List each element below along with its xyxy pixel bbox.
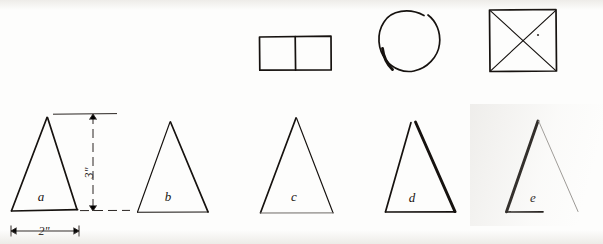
height-dimension-line <box>90 114 97 211</box>
base-dimension-label: 2" <box>38 224 50 238</box>
triangle-c-label: c <box>291 189 297 204</box>
dimension-annotations <box>11 114 130 237</box>
apex-extension-line <box>53 114 117 115</box>
figure-drawing: a b c d e 3" 2" <box>0 0 603 244</box>
triangle-c <box>261 118 334 213</box>
top-row-shapes <box>260 10 557 72</box>
triangle-a-label: a <box>38 189 45 204</box>
height-dimension-label: 3" <box>82 167 96 180</box>
triangle-e-label: e <box>530 190 536 205</box>
triangle-e <box>507 121 579 212</box>
triangle-d <box>386 122 456 212</box>
stray-dot <box>537 34 539 36</box>
triangle-labels: a b c d e <box>38 189 536 205</box>
triangle-a <box>12 118 78 212</box>
divided-rectangle <box>260 36 332 70</box>
square-with-diagonals <box>490 10 557 72</box>
triangle-b <box>138 122 209 212</box>
triangle-b-label: b <box>165 189 172 204</box>
figure-canvas: a b c d e 3" 2" <box>0 0 603 244</box>
triangle-d-label: d <box>409 190 416 205</box>
open-circle <box>379 11 440 71</box>
